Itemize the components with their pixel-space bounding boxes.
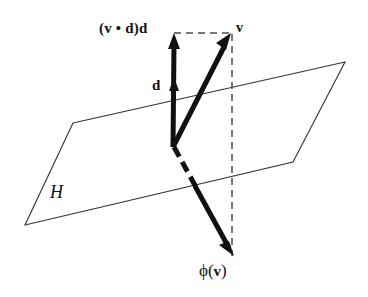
reflection-label-v: v (214, 263, 222, 279)
unit-normal-label: d (152, 78, 160, 93)
projection-vector-arrowhead (168, 33, 180, 49)
hyperplane-parallelogram (25, 62, 345, 225)
hyperplane-label: H (50, 183, 63, 201)
reflection-vector-solid-segment (195, 186, 229, 248)
unit-normal-arrowhead (169, 77, 179, 91)
figure-canvas: (v • d)d v d H ϕ(v) (0, 0, 368, 297)
reflection-vector-dashed-segment (174, 147, 197, 189)
projection-vector-label: (v • d)d (99, 21, 148, 36)
unit-normal-shaft (173, 86, 174, 124)
vector-diagram-svg (0, 0, 368, 297)
reflection-label-close: ) (221, 261, 227, 280)
vector-v-label: v (236, 21, 243, 35)
reflection-label-phi-open: ϕ( (199, 261, 214, 280)
reflection-label: ϕ(v) (199, 262, 227, 279)
vector-v-arrowhead (216, 33, 231, 50)
vector-v-shaft (173, 47, 224, 147)
